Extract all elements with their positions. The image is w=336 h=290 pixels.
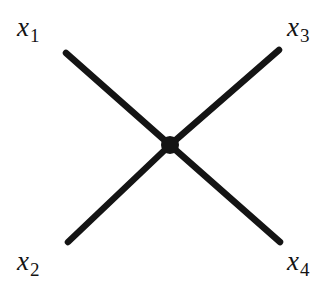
vertex-label-x2-symbol: x [17, 246, 29, 276]
diagram-canvas: x1 x3 x2 x4 [0, 0, 336, 290]
vertex-label-x4-subscript: 4 [300, 259, 310, 280]
vertex-label-x3-symbol: x [287, 12, 299, 42]
leg-x1 [66, 53, 170, 145]
interaction-vertex-dot [161, 136, 179, 154]
leg-x2 [68, 145, 170, 242]
vertex-label-x3: x3 [287, 14, 308, 41]
vertex-label-x2: x2 [17, 248, 38, 275]
vertex-label-x4: x4 [287, 248, 308, 275]
vertex-label-x3-subscript: 3 [300, 25, 310, 46]
vertex-label-x2-subscript: 2 [30, 259, 40, 280]
vertex-label-x1-symbol: x [17, 12, 29, 42]
feynman-diagram [0, 0, 336, 290]
vertex-label-x4-symbol: x [287, 246, 299, 276]
vertex-label-x1-subscript: 1 [30, 25, 40, 46]
vertex-label-x1: x1 [17, 14, 38, 41]
leg-x3 [170, 50, 279, 145]
leg-x4 [170, 145, 280, 242]
